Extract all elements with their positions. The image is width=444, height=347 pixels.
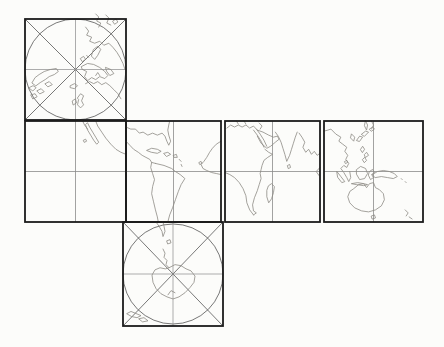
- coastline-path: [253, 149, 273, 215]
- coastline-path: [82, 63, 108, 80]
- coastline-path: [357, 166, 375, 179]
- coastline-path: [84, 139, 87, 142]
- pacific-face: [25, 121, 126, 222]
- coastlines-group: [29, 14, 125, 108]
- asia-australia-face: [324, 121, 423, 222]
- coastline-path: [225, 173, 254, 215]
- coastline-path: [81, 55, 89, 61]
- coastline-path: [348, 183, 385, 219]
- coastline-path: [345, 160, 348, 163]
- coastline-path: [199, 161, 202, 164]
- coastline-path: [70, 84, 77, 89]
- coastline-path: [267, 184, 275, 203]
- coastline-path: [365, 121, 374, 130]
- coastline-path: [127, 311, 148, 321]
- coastline-path: [401, 179, 406, 183]
- coastline-path: [351, 134, 355, 141]
- coastline-path: [72, 94, 83, 108]
- coastline-path: [86, 73, 121, 99]
- coastline-path: [254, 129, 267, 147]
- coastline-path: [361, 146, 369, 162]
- coastline-path: [83, 121, 88, 129]
- coastline-path: [86, 27, 125, 69]
- coastline-path: [201, 141, 221, 174]
- coastlines-group: [324, 121, 412, 219]
- coastline-path: [86, 123, 99, 144]
- coastline-path: [147, 148, 182, 166]
- coastline-path: [96, 121, 126, 154]
- coastline-path: [156, 222, 171, 244]
- coastline-path: [126, 121, 171, 145]
- coastline-path: [299, 133, 320, 175]
- africa-india-face: [225, 121, 320, 222]
- coastline-path: [227, 121, 262, 129]
- americas-face: [126, 121, 221, 222]
- coastline-path: [155, 163, 184, 222]
- coastline-path: [152, 265, 195, 299]
- coastline-path: [405, 210, 412, 219]
- coastline-path: [32, 68, 58, 85]
- south-polar-face: [123, 222, 223, 326]
- coastlines-group: [83, 121, 126, 154]
- world-map-svg: [0, 0, 444, 347]
- unfolded-cube-map: [0, 0, 444, 347]
- north-polar-face: [25, 14, 126, 120]
- coastline-path: [275, 132, 297, 168]
